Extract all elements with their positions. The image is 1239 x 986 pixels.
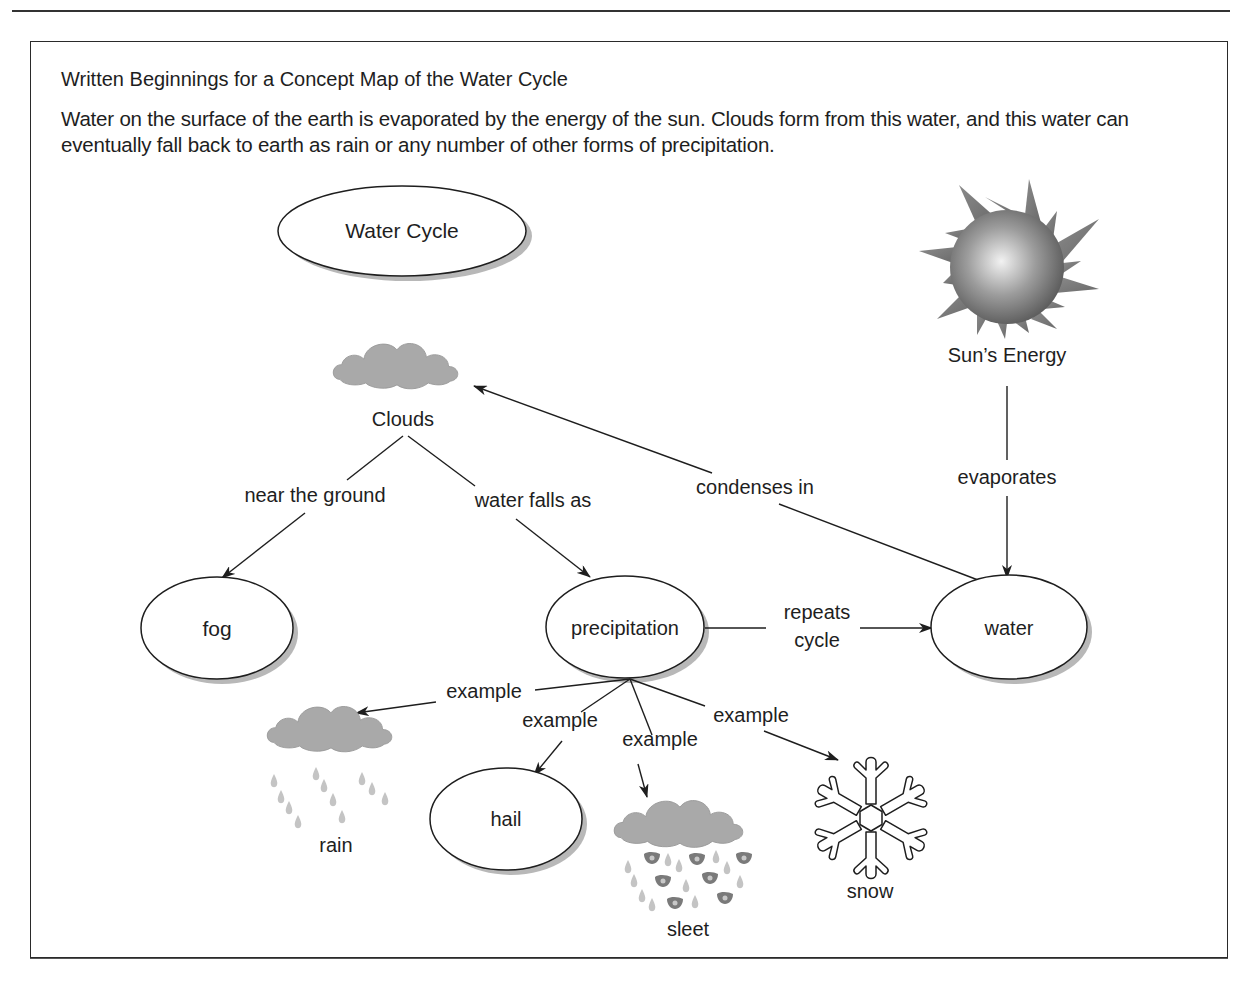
node-sun-label: Sun’s Energy [948,344,1067,366]
cloud-icon [333,344,458,389]
link-example-sleet: example [622,728,698,750]
node-rain-label: rain [319,834,352,856]
node-water-cycle: Water Cycle [278,186,532,281]
node-snow-label: snow [847,880,894,902]
node-label: water [984,617,1034,639]
sleet-cloud-icon [614,801,752,912]
link-repeats: repeats [784,601,851,623]
sun-icon [919,179,1099,339]
node-precipitation: precipitation [546,576,709,683]
node-label: hail [490,808,521,830]
link-cycle: cycle [794,629,840,651]
node-label: fog [202,617,231,640]
link-evaporates: evaporates [958,466,1057,488]
node-fog: fog [141,577,298,684]
node-label: Water Cycle [345,219,459,242]
node-clouds-label: Clouds [372,408,434,430]
node-label: precipitation [571,617,679,639]
node-sleet-label: sleet [667,918,710,940]
node-hail: hail [430,768,587,875]
link-water-falls-as: water falls as [474,489,592,511]
node-water: water [931,575,1092,684]
concept-map: Water Cycle Sun’s Energy Clouds [0,0,1239,986]
link-example-rain: example [446,680,522,702]
rain-cloud-icon [267,707,392,829]
link-near-ground: near the ground [244,484,385,506]
snowflake-icon [810,758,932,879]
link-example-snow: example [713,704,789,726]
link-example-hail: example [522,709,598,731]
link-condenses-in: condenses in [696,476,814,498]
